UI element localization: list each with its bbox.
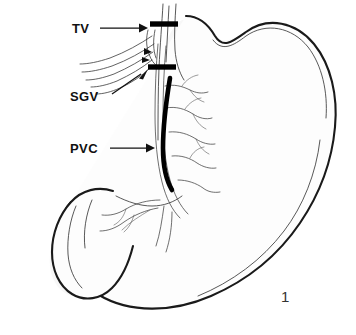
- sgv-leader-line: [112, 74, 141, 94]
- label-pvc: PVC: [70, 141, 98, 156]
- figure-container: TV SGV PVC 1: [0, 0, 356, 335]
- label-tv: TV: [72, 21, 89, 36]
- label-sgv: SGV: [70, 89, 99, 104]
- vagal-fiber-4: [91, 60, 152, 87]
- figure-number: 1: [281, 288, 289, 305]
- tv-arrowhead: [139, 24, 148, 33]
- stomach-illustration: TV SGV PVC 1: [0, 0, 356, 335]
